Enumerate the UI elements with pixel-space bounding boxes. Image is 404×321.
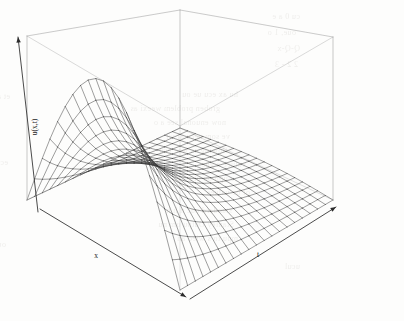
plot-line <box>241 170 249 174</box>
plot-line <box>234 167 242 171</box>
plot-line <box>203 235 211 236</box>
plot-line <box>88 136 96 142</box>
plot-line <box>180 286 188 291</box>
plot-line <box>88 79 96 81</box>
plot-line <box>96 79 104 100</box>
plot-line <box>58 168 66 179</box>
plot-line <box>287 186 295 190</box>
plot-line <box>180 134 188 137</box>
plot-line <box>195 256 203 276</box>
plot-line <box>190 207 336 299</box>
plot-line <box>264 166 272 169</box>
plot-line <box>287 194 295 198</box>
plot-line <box>218 151 226 154</box>
plot-line <box>241 191 249 196</box>
plot-line <box>287 207 295 213</box>
plot-line <box>142 142 150 146</box>
plot-line <box>264 180 272 183</box>
plot-line <box>188 208 196 222</box>
plot-line <box>226 208 234 209</box>
plot-line <box>195 222 203 237</box>
plot-line <box>195 174 203 175</box>
plot-line <box>111 117 119 131</box>
plot-line <box>249 165 257 168</box>
plot-line <box>111 141 119 142</box>
plot-line <box>218 210 226 211</box>
plot-line <box>180 149 188 152</box>
plot-line <box>88 154 96 158</box>
plot-line <box>279 207 287 211</box>
plot-line <box>249 174 257 178</box>
plot-line <box>264 205 272 208</box>
plot-line <box>65 121 73 133</box>
axis-arrowhead <box>16 37 20 43</box>
plot-line <box>211 148 219 151</box>
plot-line <box>180 236 188 237</box>
plot-line <box>88 80 96 100</box>
plot-line <box>188 159 196 162</box>
plot-line <box>279 220 287 227</box>
plot-line <box>234 200 242 207</box>
plot-line <box>157 147 165 150</box>
plot-line <box>211 151 219 154</box>
plot-line <box>73 149 81 158</box>
plot-line <box>188 163 196 166</box>
plot-line <box>257 179 265 183</box>
plot-line <box>165 230 173 233</box>
plot-line <box>104 144 112 151</box>
plot-line <box>211 222 219 234</box>
plot-line <box>81 80 89 85</box>
plot-line <box>188 134 196 137</box>
plot-line <box>149 153 157 155</box>
plot-line <box>234 254 242 259</box>
plot-line <box>96 158 104 161</box>
plot-line <box>218 182 226 187</box>
plot-line <box>234 239 242 242</box>
plot-line <box>88 158 96 163</box>
plot-line <box>257 217 265 220</box>
plot-line <box>264 224 272 228</box>
plot-line <box>188 258 196 281</box>
plot-line <box>149 176 157 186</box>
plot-line <box>134 130 142 146</box>
plot-line <box>73 158 81 161</box>
plot-line <box>249 193 257 196</box>
plot-line <box>58 147 66 153</box>
plot-line <box>325 200 333 205</box>
plot-line <box>188 281 196 286</box>
plot-line <box>257 158 265 162</box>
plot-line <box>257 176 265 179</box>
plot-line <box>241 198 249 204</box>
plot-line <box>226 200 234 201</box>
plot-line <box>188 171 196 174</box>
plot-line <box>257 199 265 202</box>
plot-line <box>73 132 81 142</box>
plot-line <box>264 173 272 176</box>
plot-line <box>81 163 89 169</box>
plot-line <box>249 202 257 205</box>
plot-line <box>218 211 226 220</box>
plot-line <box>241 181 249 183</box>
plot-line <box>172 149 180 151</box>
plot-line <box>226 246 234 259</box>
plot-line <box>165 141 173 143</box>
plot-line <box>111 142 119 150</box>
plot-line <box>264 191 272 196</box>
plot-line <box>188 156 196 158</box>
plot-line <box>172 151 180 154</box>
plot-line <box>50 178 58 179</box>
plot-line <box>73 85 81 94</box>
z-axis-label: u(x,t) <box>30 118 39 135</box>
plot-line <box>264 162 272 166</box>
plot-line <box>218 232 226 234</box>
plot-line <box>279 184 287 189</box>
plot-line <box>272 184 280 187</box>
plot-line <box>165 177 173 190</box>
plot-line <box>272 205 280 211</box>
plot-line <box>257 208 265 211</box>
plot-line <box>65 168 73 169</box>
plot-line <box>203 178 211 183</box>
plot-line <box>188 170 196 171</box>
plot-line <box>157 163 165 164</box>
plot-line <box>234 158 242 161</box>
